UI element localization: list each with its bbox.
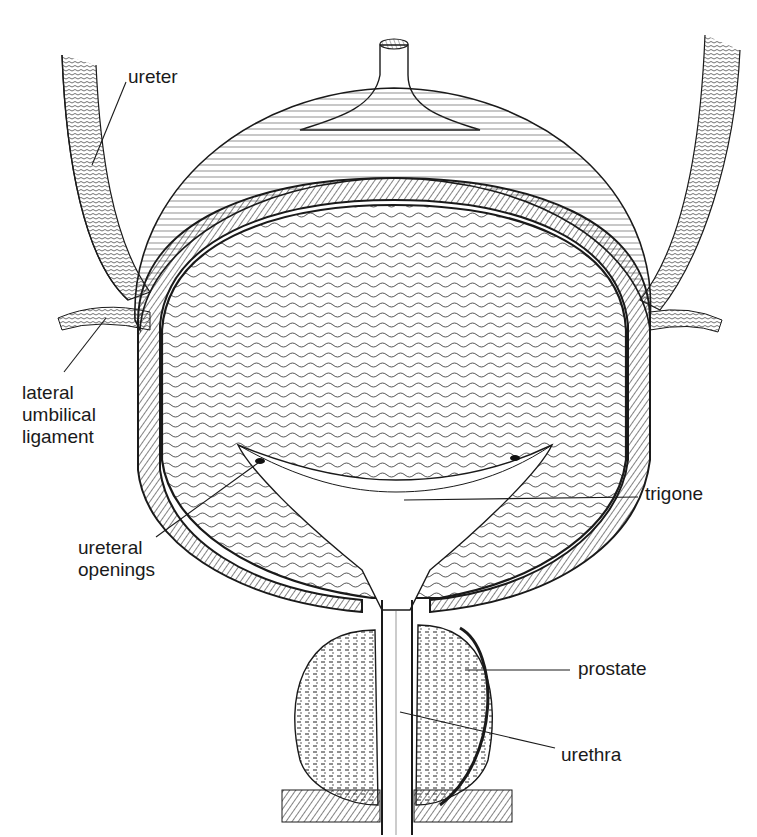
prostate-gland [295,625,493,805]
urogenital-diaphragm-right [414,790,512,822]
label-line: lateral [22,382,96,404]
right-lateral-umbilical-ligament [650,310,722,332]
label-urethra: urethra [561,744,621,766]
label-prostate: prostate [578,658,647,680]
right-ureter [640,35,740,310]
label-line: openings [78,559,155,581]
label-ureter: ureter [128,66,178,88]
left-ureteral-opening [255,458,265,464]
urogenital-diaphragm-left [282,790,380,822]
label-lateral-umbilical-ligament: lateral umbilical ligament [22,382,96,448]
label-trigone: trigone [645,483,703,505]
left-ureter [62,55,150,300]
bladder-diagram: ureter lateral umbilical ligament ureter… [0,0,757,837]
bladder-illustration [0,0,757,837]
right-ureteral-opening [510,455,520,461]
label-line: ureteral [78,537,155,559]
label-line: umbilical [22,404,96,426]
label-line: ligament [22,426,96,448]
label-ureteral-openings: ureteral openings [78,537,155,581]
urethra-tube [382,600,412,835]
